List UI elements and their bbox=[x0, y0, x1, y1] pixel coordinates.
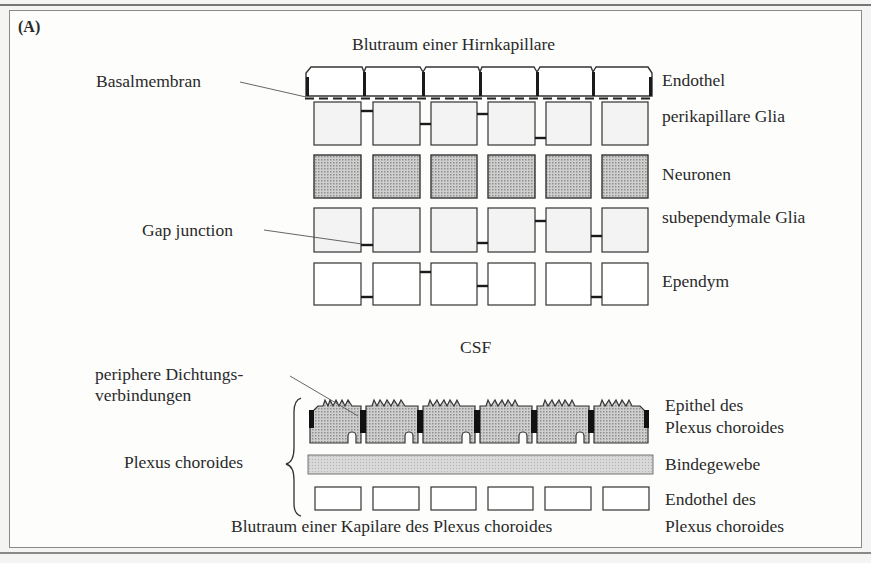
layer-label-epithel-line2: Plexus choroides bbox=[665, 417, 784, 437]
layer-label-neuronen: Neuronen bbox=[662, 164, 731, 184]
neuron-row bbox=[314, 155, 648, 198]
plexus-brace bbox=[286, 398, 301, 516]
layer-label-perikapillare-glia: perikapillare Glia bbox=[662, 106, 785, 126]
layer-label-ependym: Ependym bbox=[662, 271, 729, 291]
layer-label-epithel-line1: Epithel des bbox=[665, 395, 743, 415]
perikapillare-glia-row bbox=[314, 102, 648, 145]
gap-junction-label: Gap junction bbox=[142, 220, 233, 240]
tight-junction-label-line2: verbindungen bbox=[95, 385, 191, 405]
layer-label-bindegewebe: Bindegewebe bbox=[665, 454, 760, 474]
layer-label-endothel-plexus-line1: Endothel des bbox=[665, 489, 756, 509]
csf-label: CSF bbox=[460, 337, 491, 357]
layer-label-endothel: Endothel bbox=[662, 70, 725, 90]
tight-junction-label-line1: periphere Dichtungs- bbox=[95, 364, 243, 384]
basal-membrane-label: Basalmembran bbox=[96, 71, 201, 91]
bindegewebe-band bbox=[308, 455, 653, 474]
plexus-capillary-caption: Blutraum einer Kapilare des Plexus choro… bbox=[231, 516, 552, 536]
basal-membrane-pointer bbox=[240, 82, 306, 97]
ependym-row bbox=[314, 263, 648, 305]
plexus-brace-label: Plexus choroides bbox=[124, 452, 243, 472]
layer-label-endothel-plexus-line2: Plexus choroides bbox=[665, 516, 784, 536]
plexus-endothel-row bbox=[315, 487, 649, 510]
layer-label-subependymale-glia: subependymale Glia bbox=[662, 207, 805, 227]
brain-capillary-title: Blutraum einer Hirnkapillare bbox=[352, 34, 555, 54]
